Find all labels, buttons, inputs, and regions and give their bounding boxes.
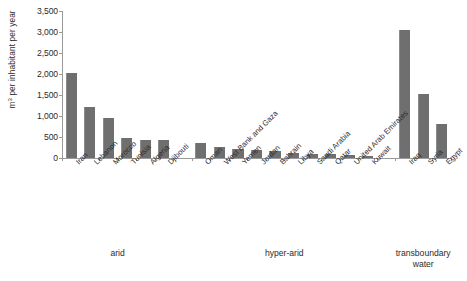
y-tick-label: 500 [44, 132, 58, 142]
bar [399, 30, 410, 158]
group-label: hyper-arid [224, 248, 344, 259]
y-tick-label: 1,500 [37, 90, 58, 100]
y-tick-label: 3,000 [37, 27, 58, 37]
y-tick-label: 3,500 [37, 6, 58, 16]
y-tick-label: 0 [53, 153, 58, 163]
bar [418, 94, 429, 158]
group-label: arid [58, 248, 178, 259]
x-axis-category-labels: IranLebanonMoroccoTunisiaAlgeriaDjibouti… [62, 160, 451, 238]
y-tick-label: 2,500 [37, 48, 58, 58]
group-labels: aridhyper-aridtransboundary water [0, 248, 455, 281]
bar [84, 107, 95, 158]
bar [66, 73, 77, 158]
bar [195, 143, 206, 158]
y-axis-title: m3 per inhabitant per year [7, 0, 18, 129]
group-label: transboundary water [363, 248, 467, 269]
y-tick-label: 1,000 [37, 111, 58, 121]
y-tick-label: 2,000 [37, 69, 58, 79]
